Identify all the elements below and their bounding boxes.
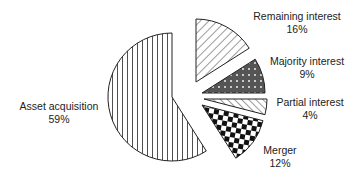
label-text: Majority interest [265,55,349,68]
label-text: Remaining interest [245,10,349,23]
label-text: Asset acquisition [18,100,100,113]
label-text: Partial interest [270,96,350,109]
label-value: 16% [245,23,349,36]
label-remaining-interest: Remaining interest 16% [245,10,349,36]
slice-merger [202,105,263,158]
slice-asset-acquisition [108,33,206,161]
label-value: 9% [265,68,349,81]
label-value: 59% [18,113,100,126]
label-merger: Merger 12% [258,144,302,170]
label-value: 4% [270,109,350,122]
label-majority-interest: Majority interest 9% [265,55,349,81]
label-asset-acquisition: Asset acquisition 59% [18,100,100,126]
label-text: Merger [258,144,302,157]
label-value: 12% [258,157,302,170]
label-partial-interest: Partial interest 4% [270,96,350,122]
